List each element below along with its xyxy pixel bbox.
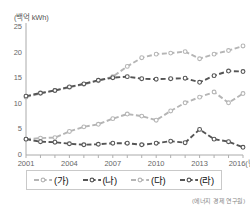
legend-label: (나) xyxy=(103,173,117,187)
legend-label: (라) xyxy=(200,173,214,187)
x-tick-2004: 2004 xyxy=(46,160,92,168)
chart-legend: (가)(나)(다)(라) xyxy=(26,170,222,190)
y-tick-20: 20 xyxy=(4,49,22,57)
y-tick-15: 15 xyxy=(4,74,22,82)
legend-item-2[interactable]: (나) xyxy=(83,173,117,187)
legend-item-1[interactable]: (가) xyxy=(34,173,68,187)
legend-item-3[interactable]: (다) xyxy=(131,173,165,187)
x-tick-2007: 2007 xyxy=(90,160,136,168)
legend-label: (가) xyxy=(54,173,68,187)
source-note: (에너지 경제 연구원) xyxy=(192,196,245,205)
legend-line-swatch xyxy=(34,176,52,184)
series-2 xyxy=(24,69,245,98)
legend-line-swatch xyxy=(180,176,198,184)
legend-item-4[interactable]: (라) xyxy=(180,173,214,187)
line-chart: (백억 kWh) 0510152025 20012004200720102013… xyxy=(0,0,250,211)
y-tick-10: 10 xyxy=(4,100,22,108)
y-tick-25: 25 xyxy=(4,23,22,31)
series-3 xyxy=(24,90,245,141)
legend-label: (다) xyxy=(151,173,165,187)
x-tick-2016년: 2016(년) xyxy=(220,160,250,168)
legend-line-swatch xyxy=(83,176,101,184)
y-tick-0: 0 xyxy=(4,151,22,159)
x-tick-2010: 2010 xyxy=(133,160,179,168)
x-tick-2001: 2001 xyxy=(3,160,49,168)
y-tick-5: 5 xyxy=(4,125,22,133)
x-tick-2013: 2013 xyxy=(177,160,223,168)
legend-line-swatch xyxy=(131,176,149,184)
